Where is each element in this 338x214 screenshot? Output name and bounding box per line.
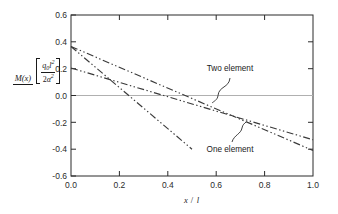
x-axis-title-slash: / (191, 195, 194, 205)
annotation-one-element: One element (207, 145, 255, 154)
x-tick-label-4: 0.8 (259, 180, 271, 190)
bracket-right-icon (56, 58, 60, 84)
y-axis-inner-fraction: q0l2 2α2 (41, 59, 55, 84)
bracket-left-icon (36, 58, 40, 84)
y-axis-denominator: q0l2 2α2 (37, 58, 59, 84)
x-axis-title-var: x (183, 195, 188, 205)
x-axis-title-var2: l (197, 195, 200, 205)
y-axis-inner-numerator: q0l2 (41, 59, 55, 73)
x-tick-label-5: 1.0 (307, 180, 319, 190)
y-tick-label-3: 0.0 (55, 91, 67, 101)
x-tick-label-2: 0.4 (162, 180, 174, 190)
y-tick-label-5: -0.4 (52, 144, 67, 154)
y-tick-label-4: -0.2 (52, 118, 67, 128)
y-axis-inner-denominator: 2α2 (41, 73, 55, 84)
annotation-two-element: Two element (207, 64, 254, 73)
l-exponent: 2 (51, 59, 54, 65)
y-tick-label-0: 0.6 (55, 10, 67, 20)
y-axis-numerator: M(x) (13, 74, 34, 85)
chart-figure: 0.6 0.4 0.2 0.0 -0.2 -0.4 -0.6 0.0 0.2 0… (0, 0, 338, 214)
x-tick-label-3: 0.6 (210, 180, 222, 190)
y-tick-label-1: 0.4 (55, 37, 67, 47)
alpha-exponent: 2 (51, 73, 54, 79)
x-tick-label-0: 0.0 (65, 180, 77, 190)
plot-canvas: 0.6 0.4 0.2 0.0 -0.2 -0.4 -0.6 0.0 0.2 0… (0, 0, 338, 214)
x-tick-label-1: 0.2 (113, 180, 125, 190)
y-axis-title: M(x) q0l2 2α2 (10, 58, 62, 85)
x-axis-title: x / l (183, 195, 200, 205)
